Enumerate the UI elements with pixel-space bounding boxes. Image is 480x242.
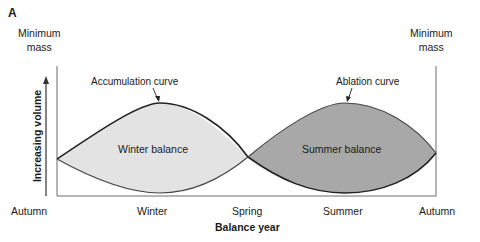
- pointer-arrowhead-icon: [346, 96, 351, 102]
- winter-balance-label: Winter balance: [118, 143, 188, 155]
- label-line: Minimum: [410, 26, 453, 40]
- pointer-arrowhead-icon: [155, 96, 160, 102]
- label-line: mass: [410, 40, 453, 54]
- x-tick-autumn-start: Autumn: [11, 205, 47, 217]
- left-minimum-mass-label: Minimum mass: [18, 26, 61, 54]
- y-axis-title: Increasing volume: [31, 81, 43, 191]
- label-line: mass: [18, 40, 61, 54]
- right-minimum-mass-label: Minimum mass: [410, 26, 453, 54]
- x-tick-spring: Spring: [232, 205, 262, 217]
- arrow-head-icon: [43, 76, 49, 84]
- label-line: Minimum: [18, 26, 61, 40]
- accumulation-curve-label: Accumulation curve: [91, 76, 178, 87]
- x-tick-winter: Winter: [137, 205, 167, 217]
- x-tick-autumn-end: Autumn: [419, 205, 455, 217]
- x-axis-title: Balance year: [215, 221, 280, 233]
- panel-label: A: [8, 6, 17, 20]
- x-tick-summer: Summer: [323, 205, 363, 217]
- ablation-curve-label: Ablation curve: [336, 76, 399, 87]
- summer-balance-label: Summer balance: [302, 143, 381, 155]
